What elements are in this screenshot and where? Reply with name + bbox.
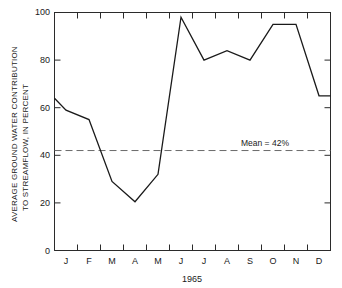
line-chart: AVERAGE GROUND WATER CONTRIBUTION TO STR… — [0, 0, 342, 288]
x-tick-label-sep: S — [247, 256, 253, 266]
x-tick-labels: J F M A M J J A S O N D — [64, 256, 323, 266]
data-series-line — [55, 17, 331, 201]
y-tick-label-40: 40 — [40, 150, 50, 160]
right-tick-marks — [325, 13, 331, 203]
x-axis-title: 1965 — [182, 274, 202, 284]
mean-annotation-label: Mean = 42% — [241, 138, 289, 148]
x-tick-label-jan: J — [64, 256, 69, 266]
x-tick-label-oct: O — [269, 256, 276, 266]
y-tick-label-100: 100 — [35, 7, 50, 17]
y-axis-title-line1: AVERAGE GROUND WATER CONTRIBUTION — [10, 46, 19, 222]
x-tick-marks-top — [78, 13, 308, 19]
x-tick-marks-bottom — [55, 245, 331, 251]
chart-figure: AVERAGE GROUND WATER CONTRIBUTION TO STR… — [0, 0, 342, 288]
x-tick-label-dec: D — [316, 256, 323, 266]
x-tick-label-apr: A — [132, 256, 138, 266]
x-tick-label-mar: M — [108, 256, 116, 266]
y-tick-label-80: 80 — [40, 55, 50, 65]
x-tick-label-jul: J — [202, 256, 207, 266]
x-tick-label-aug: A — [224, 256, 230, 266]
y-tick-label-0: 0 — [45, 246, 50, 256]
y-tick-marks — [55, 13, 61, 251]
y-axis-title-line2: TO STREAMFLOW, IN PERCENT — [21, 84, 30, 211]
x-tick-label-nov: N — [293, 256, 300, 266]
y-tick-label-20: 20 — [40, 198, 50, 208]
y-tick-label-60: 60 — [40, 103, 50, 113]
x-tick-label-feb: F — [86, 256, 92, 266]
x-tick-label-jun: J — [179, 256, 184, 266]
x-tick-label-may: M — [154, 256, 162, 266]
